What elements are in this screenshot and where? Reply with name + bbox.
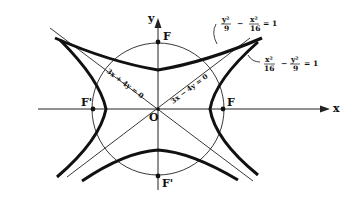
focus-top-label: F (163, 30, 171, 43)
svg-text:y²: y² (290, 55, 299, 64)
svg-text:−: − (237, 19, 243, 28)
svg-text:9: 9 (224, 24, 229, 33)
focus-bottom-label: F' (162, 177, 173, 190)
svg-text:16: 16 (264, 64, 274, 73)
svg-text:x²: x² (265, 55, 273, 64)
svg-text:x²: x² (250, 15, 258, 24)
asymptote-label-minus: 3x − 4y = 0 (169, 72, 210, 106)
origin-label: O (149, 111, 159, 124)
svg-text:9: 9 (293, 64, 298, 73)
conjugate-hyperbolas-diagram: x y F F' F F' O 3x + 4y = 0 3x − 4y = 0 … (0, 0, 346, 198)
focus-left-label: F' (81, 96, 92, 109)
asymptote-label-plus: 3x + 4y = 0 (105, 66, 146, 100)
equation-vertical-hyperbola: y² 9 − x² 16 = 1 (214, 15, 277, 44)
focus-bottom-point (156, 174, 161, 179)
svg-text:= 1: = 1 (304, 59, 318, 68)
svg-text:−: − (281, 59, 287, 68)
focus-top-point (156, 40, 161, 45)
focus-right-label: F (227, 96, 235, 109)
svg-text:16: 16 (250, 24, 260, 33)
svg-text:= 1: = 1 (263, 19, 277, 28)
svg-text:y²: y² (221, 15, 230, 24)
x-axis-arrow-icon (320, 106, 330, 113)
y-axis-label: y (147, 12, 155, 25)
equation-horizontal-hyperbola: x² 16 − y² 9 = 1 (248, 55, 318, 73)
focus-right-point (221, 107, 226, 112)
x-axis-label: x (333, 102, 340, 115)
y-axis-arrow-icon (155, 18, 162, 28)
